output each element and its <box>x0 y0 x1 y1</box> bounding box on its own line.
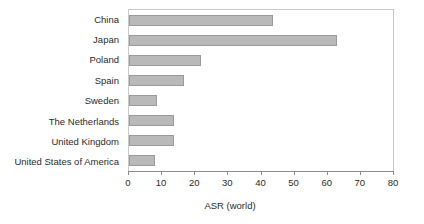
x-tick-label-8: 80 <box>388 177 399 188</box>
bar-2 <box>129 55 201 66</box>
x-tick-label-7: 70 <box>355 177 366 188</box>
category-row: Japan <box>0 29 124 49</box>
category-row: United States of America <box>0 152 124 172</box>
bar-7 <box>129 155 155 166</box>
x-tick-label-3: 30 <box>222 177 233 188</box>
category-row: The Netherlands <box>0 111 124 131</box>
category-label-1: Japan <box>93 34 119 45</box>
bar-chart: ChinaJapanPolandSpainSwedenThe Netherlan… <box>0 0 424 224</box>
x-tick-7 <box>360 171 361 175</box>
bar-4 <box>129 95 157 106</box>
x-axis: 01020304050607080 <box>128 171 393 172</box>
x-tick-4 <box>261 171 262 175</box>
bar-row <box>129 151 393 171</box>
category-label-3: Spain <box>95 75 119 86</box>
category-label-4: Sweden <box>85 95 119 106</box>
category-label-2: Poland <box>89 54 119 65</box>
bar-0 <box>129 15 273 26</box>
plot-area <box>128 9 394 172</box>
bar-1 <box>129 35 337 46</box>
category-row: Poland <box>0 50 124 70</box>
x-tick-8 <box>393 171 394 175</box>
category-label-7: United States of America <box>14 156 119 167</box>
x-tick-label-0: 0 <box>125 177 130 188</box>
x-axis-title-label: ASR (world) <box>204 200 255 211</box>
x-tick-1 <box>161 171 162 175</box>
bar-row <box>129 10 393 30</box>
bar-row <box>129 30 393 50</box>
bar-row <box>129 91 393 111</box>
bar-row <box>129 70 393 90</box>
bar-row <box>129 111 393 131</box>
category-row: China <box>0 9 124 29</box>
bars-layer <box>129 10 393 171</box>
category-row: Spain <box>0 70 124 90</box>
category-row: United Kingdom <box>0 131 124 151</box>
x-axis-title: ASR (world) <box>0 200 424 211</box>
x-tick-label-1: 10 <box>156 177 167 188</box>
x-tick-3 <box>227 171 228 175</box>
category-row: Sweden <box>0 91 124 111</box>
bar-3 <box>129 75 184 86</box>
bar-5 <box>129 115 174 126</box>
x-tick-label-6: 60 <box>321 177 332 188</box>
x-tick-label-4: 40 <box>255 177 266 188</box>
category-label-6: United Kingdom <box>51 136 119 147</box>
x-tick-0 <box>128 171 129 175</box>
x-tick-label-5: 50 <box>288 177 299 188</box>
bar-row <box>129 131 393 151</box>
x-tick-label-2: 20 <box>189 177 200 188</box>
category-label-5: The Netherlands <box>49 116 119 127</box>
x-tick-2 <box>194 171 195 175</box>
category-label-0: China <box>94 14 119 25</box>
x-tick-6 <box>327 171 328 175</box>
bar-6 <box>129 135 174 146</box>
bar-row <box>129 50 393 70</box>
x-tick-5 <box>294 171 295 175</box>
category-axis: ChinaJapanPolandSpainSwedenThe Netherlan… <box>0 9 124 172</box>
